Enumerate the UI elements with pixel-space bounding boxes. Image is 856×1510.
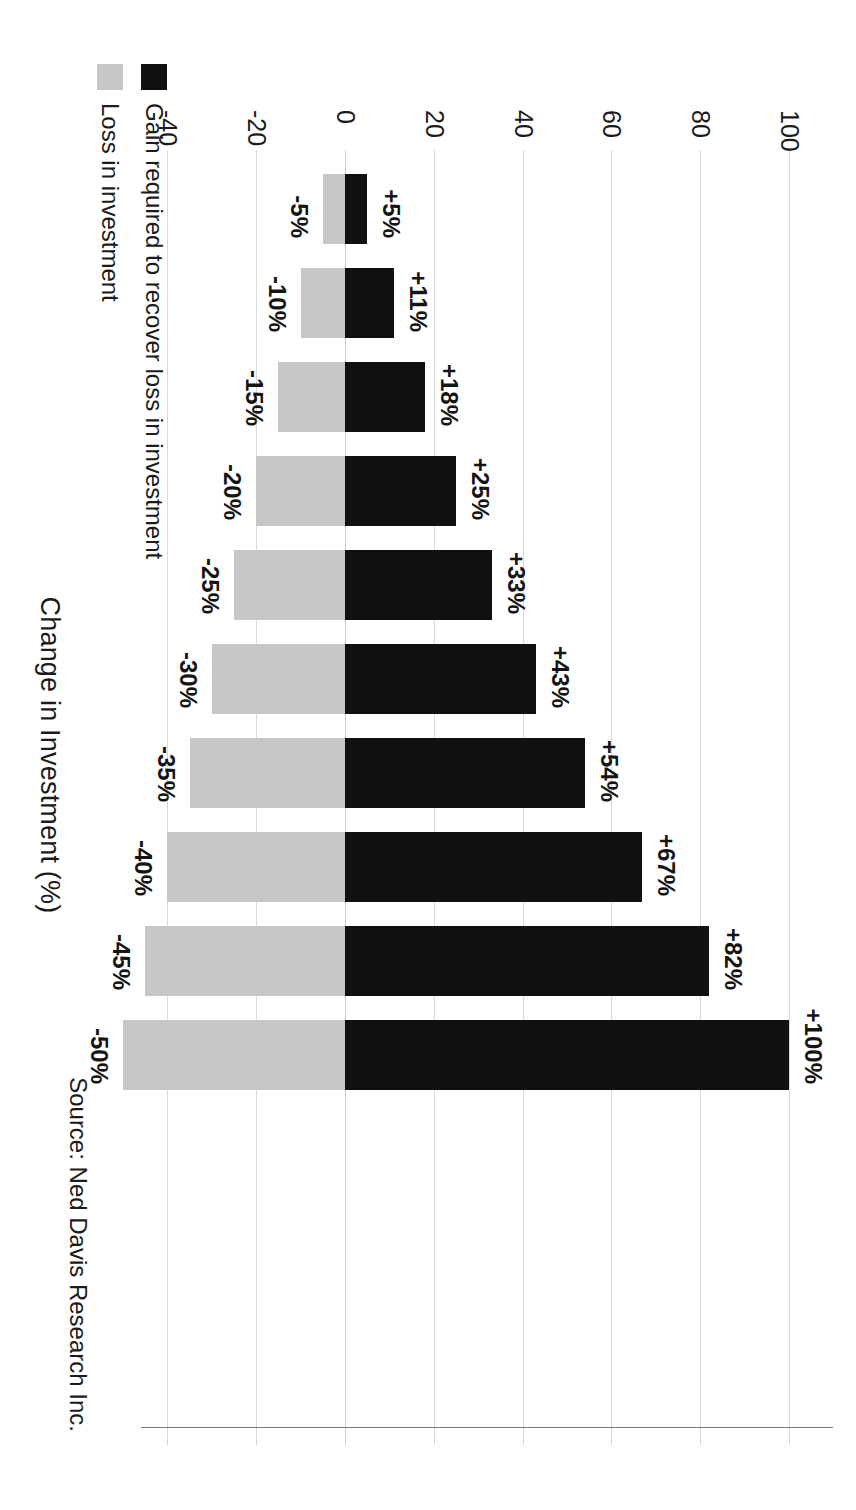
bar-label-gain-6: +54% (595, 740, 623, 802)
bar-loss-3 (256, 456, 345, 526)
gridline-100 (789, 150, 790, 1445)
bar-label-loss-4: -25% (196, 558, 224, 614)
bar-label-loss-8: -45% (107, 934, 135, 990)
tick-label-0: 0 (331, 110, 360, 124)
bar-gain-6 (345, 738, 585, 808)
bar-label-loss-3: -20% (218, 464, 246, 520)
legend-item-gain: Gain required to recover loss in investm… (140, 64, 168, 559)
bar-loss-1 (301, 268, 345, 338)
bar-label-gain-9: +100% (799, 1009, 827, 1084)
legend-label-gain: Gain required to recover loss in investm… (140, 103, 168, 559)
chart-legend: Loss in investmentGain required to recov… (96, 64, 168, 559)
gridline-80 (700, 150, 701, 1445)
bar-label-loss-6: -35% (152, 746, 180, 802)
tick-label-80: 80 (686, 110, 715, 138)
bar-loss-2 (278, 362, 345, 432)
rotated-figure-wrapper: -40-20020406080100-5%+5%-10%+11%-15%+18%… (0, 0, 856, 1510)
bar-gain-3 (345, 456, 456, 526)
gain-swatch (141, 64, 167, 90)
bar-gain-4 (345, 550, 492, 620)
source-note: Source: Ned Davis Research Inc. (64, 1077, 92, 1432)
chart-figure: -40-20020406080100-5%+5%-10%+11%-15%+18%… (0, 0, 856, 1510)
tick-label-100: 100 (775, 110, 804, 152)
bar-gain-1 (345, 268, 394, 338)
legend-item-loss: Loss in investment (96, 64, 124, 559)
bar-label-loss-7: -40% (129, 840, 157, 896)
bar-label-loss-1: -10% (263, 276, 291, 332)
bar-loss-5 (212, 644, 345, 714)
bar-label-gain-0: +5% (377, 189, 405, 238)
tick-label--20: -20 (242, 110, 271, 146)
bar-label-gain-3: +25% (466, 458, 494, 520)
bar-label-gain-1: +11% (404, 271, 432, 332)
bar-gain-7 (345, 832, 642, 902)
bar-label-loss-0: -5% (285, 195, 313, 238)
bar-loss-9 (123, 1020, 345, 1090)
bar-loss-7 (167, 832, 345, 902)
bar-label-loss-5: -30% (174, 652, 202, 708)
bar-gain-5 (345, 644, 536, 714)
bar-loss-0 (323, 174, 345, 244)
tick-label-20: 20 (419, 110, 448, 138)
legend-label-loss: Loss in investment (96, 103, 124, 302)
tick-label-40: 40 (508, 110, 537, 138)
bar-label-gain-4: +33% (502, 552, 530, 614)
bar-loss-6 (190, 738, 345, 808)
axis-rule (141, 1427, 834, 1428)
bar-loss-4 (234, 550, 345, 620)
loss-swatch (97, 64, 123, 90)
bar-label-gain-2: +18% (435, 364, 463, 426)
chart-title: Change in Investment (%) (34, 0, 65, 1510)
bar-label-loss-9: -50% (85, 1028, 113, 1084)
bar-label-gain-5: +43% (546, 646, 574, 708)
bar-gain-9 (345, 1020, 789, 1090)
tick-label-60: 60 (597, 110, 626, 138)
bar-loss-8 (145, 926, 345, 996)
bar-gain-2 (345, 362, 425, 432)
bar-label-gain-8: +82% (719, 928, 747, 990)
bar-label-gain-7: +67% (652, 834, 680, 896)
bar-gain-8 (345, 926, 709, 996)
bar-label-loss-2: -15% (240, 370, 268, 426)
bar-gain-0 (345, 174, 367, 244)
